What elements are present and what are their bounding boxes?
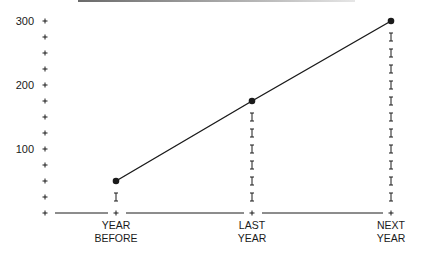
drop-line-marker <box>389 97 393 105</box>
y-axis-tick <box>43 211 48 216</box>
data-point-marker <box>249 98 256 105</box>
drop-line-marker <box>250 177 254 185</box>
y-axis-tick <box>43 83 48 88</box>
drop-line-marker <box>389 49 393 57</box>
drop-line-marker <box>250 161 254 169</box>
y-axis-tick <box>43 35 48 40</box>
data-point-marker <box>113 178 120 185</box>
y-axis-tick <box>43 131 48 136</box>
drop-line-marker <box>389 81 393 89</box>
y-axis-tick <box>43 195 48 200</box>
line-chart <box>0 0 421 256</box>
drop-line-marker <box>389 193 393 201</box>
y-axis-tick <box>43 179 48 184</box>
drop-line-marker <box>114 193 118 201</box>
y-axis-tick <box>43 51 48 56</box>
y-tick-label: 200 <box>4 79 34 91</box>
drop-line-marker <box>389 145 393 153</box>
x-axis-tick <box>114 211 119 216</box>
data-point-marker <box>388 18 395 25</box>
drop-line-marker <box>389 129 393 137</box>
drop-line-marker <box>389 113 393 121</box>
drop-line-marker <box>250 145 254 153</box>
y-axis-tick <box>43 67 48 72</box>
x-category-label: YEARBEFORE <box>81 219 151 245</box>
x-category-label: LASTYEAR <box>217 219 287 245</box>
x-axis-tick <box>250 211 255 216</box>
y-axis-tick <box>43 163 48 168</box>
drop-line-marker <box>250 193 254 201</box>
drop-line-marker <box>389 161 393 169</box>
drop-line-marker <box>389 33 393 41</box>
drop-line-marker <box>250 129 254 137</box>
y-axis-tick <box>43 115 48 120</box>
y-axis-tick <box>43 99 48 104</box>
x-category-label: NEXTYEAR <box>356 219 421 245</box>
drop-line-marker <box>389 177 393 185</box>
x-axis-tick <box>389 211 394 216</box>
y-axis-tick <box>43 147 48 152</box>
drop-line-marker <box>250 113 254 121</box>
drop-line-marker <box>389 65 393 73</box>
y-tick-label: 100 <box>4 143 34 155</box>
y-tick-label: 300 <box>4 15 34 27</box>
y-axis-tick <box>43 19 48 24</box>
